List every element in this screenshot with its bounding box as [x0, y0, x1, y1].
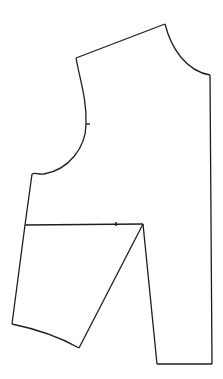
armhole-curve — [32, 58, 86, 174]
side-seam — [12, 174, 32, 324]
shoulder-seam — [76, 24, 165, 58]
pattern-diagram — [0, 0, 223, 379]
bust-line — [25, 224, 143, 225]
hem-left-curve — [12, 324, 79, 348]
dart-right-leg — [143, 224, 157, 364]
dart-left-leg — [79, 224, 143, 348]
center-front-line — [210, 75, 212, 364]
neckline-curve — [165, 24, 210, 75]
